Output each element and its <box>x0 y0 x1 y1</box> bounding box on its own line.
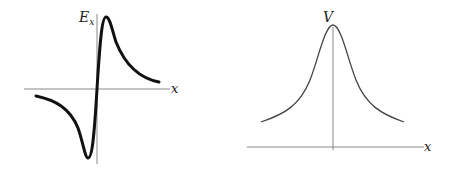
v-x-axis-label: x <box>424 139 432 154</box>
v-plot: V x <box>247 9 432 154</box>
ex-y-axis-label: Ex <box>78 9 94 27</box>
v-y-axis-label: V <box>323 9 335 25</box>
figure-canvas: Ex x V x <box>0 0 453 173</box>
ex-x-axis-label: x <box>171 81 179 96</box>
ex-plot: Ex x <box>24 9 179 164</box>
